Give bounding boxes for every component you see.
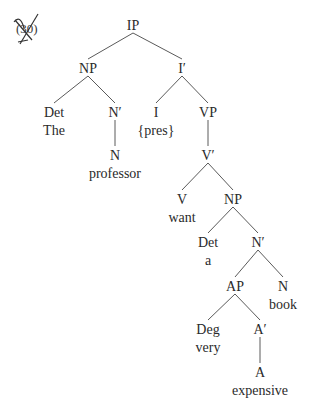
node-word-label: professor [89,166,141,181]
node-category-label: V [177,192,187,207]
node-category-label: N′ [251,235,264,250]
tree-node-ip: IP [127,18,140,33]
syntax-tree-diagram: (30) IPNPI′DetTheN′NprofessorI{pres}VPV′… [0,0,314,412]
tree-edge-np1-n-bar1 [88,76,115,103]
node-word-label: a [205,253,212,268]
node-word-label: expensive [232,383,288,398]
node-word-label: The [43,123,65,138]
tree-edge-v-bar-v [182,163,208,190]
tree-edge-i-bar-i [156,76,182,103]
tree-edge-ip-np1 [88,33,133,59]
node-category-label: Deg [196,322,219,337]
tree-node-n2: Nbook [269,279,297,312]
node-category-label: Det [44,105,64,120]
tree-node-a: Aexpensive [232,365,288,398]
tree-node-a-bar: A′ [253,322,266,337]
tree-node-det2: Deta [198,235,218,268]
node-word-label: want [168,210,195,225]
example-number: (30) [14,14,38,44]
node-word-label: very [196,340,221,355]
tree-edge-n-bar2-n2 [258,250,283,277]
tree-node-i-bar: I′ [178,61,186,76]
node-category-label: N [110,148,120,163]
tree-node-det1: DetThe [43,105,65,138]
node-category-label: Det [198,235,218,250]
tree-node-np1: NP [79,61,97,76]
tree-edge-v-bar-np2 [208,163,233,190]
tree-canvas: (30) IPNPI′DetTheN′NprofessorI{pres}VPV′… [0,0,314,412]
node-word-label: book [269,297,297,312]
node-category-label: NP [79,61,97,76]
node-category-label: N [278,279,288,294]
tree-edge-ap-deg [208,294,235,320]
node-category-label: A′ [253,322,266,337]
tree-node-deg: Degvery [196,322,221,355]
tree-node-n-bar1: N′ [108,105,121,120]
tree-edge-np2-n-bar2 [233,207,258,233]
tree-node-v-bar: V′ [201,148,214,163]
node-category-label: I [154,105,159,120]
tree-node-ap: AP [226,279,244,294]
node-category-label: A [255,365,266,380]
node-category-label: I′ [178,61,186,76]
tree-node-n1: Nprofessor [89,148,141,181]
tree-nodes: IPNPI′DetTheN′NprofessorI{pres}VPV′Vwant… [43,18,297,398]
tree-edge-n-bar2-ap [235,250,258,277]
tree-edge-ip-i-bar [133,33,182,59]
node-category-label: VP [199,105,217,120]
tree-edges [54,33,283,363]
tree-node-v: Vwant [168,192,195,225]
tree-edge-ap-a-bar [235,294,260,320]
tree-node-i: I{pres} [138,105,175,138]
tree-edge-i-bar-vp [182,76,208,103]
tree-node-vp: VP [199,105,217,120]
tree-edge-np1-det1 [54,76,88,103]
node-category-label: V′ [201,148,214,163]
node-category-label: N′ [108,105,121,120]
node-word-label: {pres} [138,123,175,138]
node-category-label: IP [127,18,140,33]
tree-edge-np2-det2 [208,207,233,233]
tree-node-n-bar2: N′ [251,235,264,250]
node-category-label: NP [224,192,242,207]
node-category-label: AP [226,279,244,294]
tree-node-np2: NP [224,192,242,207]
